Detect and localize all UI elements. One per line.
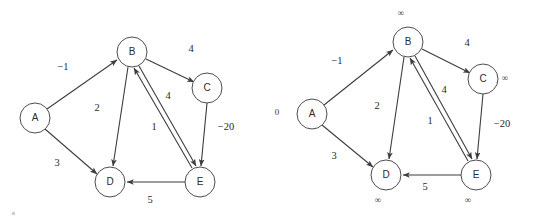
distance-label-E: ∞ bbox=[465, 195, 471, 205]
edge-label-B-E: 4 bbox=[165, 90, 171, 101]
edge-label-A-D: 3 bbox=[54, 157, 59, 168]
edge-label-C-E: −20 bbox=[218, 121, 234, 132]
node-D-right-label: D bbox=[382, 169, 389, 180]
distance-label-B: ∞ bbox=[398, 8, 404, 18]
node-C-right-label: C bbox=[479, 73, 486, 84]
edge-E-B-right bbox=[410, 58, 468, 161]
edge-B-D-right bbox=[389, 57, 404, 159]
distance-label-A: 0 bbox=[275, 107, 280, 117]
left-graph-panel: A B C D E −1 3 4 2 4 1 −20 5 bbox=[20, 37, 234, 205]
edge-label-A-B: −1 bbox=[57, 61, 68, 72]
edge-label-B-E-right: 4 bbox=[441, 84, 447, 95]
node-E-right-label: E bbox=[473, 169, 480, 180]
right-graph-panel: A B C D E −1 3 4 2 4 1 −20 5 bbox=[275, 8, 510, 205]
node-A-label: A bbox=[32, 112, 39, 123]
graph-canvas: A B C D E −1 3 4 2 4 1 −20 5 bbox=[0, 0, 533, 222]
edge-C-E-right bbox=[477, 94, 483, 159]
edge-label-E-B: 1 bbox=[151, 121, 156, 132]
right-edges bbox=[322, 49, 483, 175]
edge-label-E-D-right: 5 bbox=[422, 181, 427, 192]
left-edges bbox=[45, 59, 207, 182]
distance-label-D: ∞ bbox=[375, 195, 381, 205]
edge-label-B-C-right: 4 bbox=[464, 37, 470, 48]
edge-label-B-D: 2 bbox=[94, 102, 99, 113]
node-E-label: E bbox=[197, 176, 204, 187]
node-B-right-label: B bbox=[405, 36, 412, 47]
edge-B-C-right bbox=[422, 49, 470, 73]
edge-label-E-B-right: 1 bbox=[427, 115, 432, 126]
distance-label-C: ∞ bbox=[502, 73, 508, 83]
edge-A-D bbox=[45, 129, 97, 174]
edge-label-A-D-right: 3 bbox=[331, 150, 336, 161]
graph-figure: A B C D E −1 3 4 2 4 1 −20 5 bbox=[0, 0, 533, 222]
edge-B-E-right bbox=[415, 56, 472, 159]
edge-label-E-D: 5 bbox=[147, 194, 152, 205]
right-nodes: A B C D E bbox=[297, 27, 498, 190]
edge-label-C-E-right: −20 bbox=[494, 118, 510, 129]
edge-A-D-right bbox=[322, 125, 373, 167]
edge-label-B-C: 4 bbox=[188, 43, 194, 54]
left-nodes: A B C D E bbox=[20, 37, 222, 197]
edge-label-A-B-right: −1 bbox=[331, 55, 342, 66]
edge-label-B-D-right: 2 bbox=[374, 100, 379, 111]
image-artifact-speck bbox=[12, 212, 15, 215]
edge-E-B bbox=[134, 68, 192, 168]
node-A-right-label: A bbox=[309, 108, 316, 119]
node-D-label: D bbox=[106, 176, 113, 187]
node-C-label: C bbox=[203, 82, 210, 93]
edge-C-E bbox=[201, 103, 207, 166]
node-B-label: B bbox=[129, 46, 136, 57]
edge-B-C bbox=[146, 59, 194, 82]
edge-B-E bbox=[139, 66, 196, 166]
edge-B-D bbox=[113, 67, 128, 166]
